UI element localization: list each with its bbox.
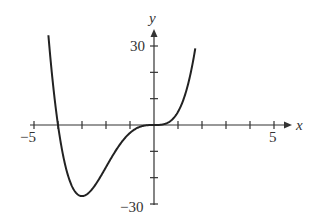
y-axis-arrow-icon <box>151 29 158 37</box>
y-axis-label: y <box>147 10 156 26</box>
x-axis-arrow-icon <box>284 122 292 129</box>
function-curve <box>48 35 195 196</box>
function-graph: x y −5 5 30 −30 <box>0 0 309 221</box>
y-max-label: 30 <box>130 38 145 54</box>
x-axis-label: x <box>295 117 303 133</box>
y-min-label: −30 <box>120 199 143 215</box>
x-max-label: 5 <box>269 129 277 145</box>
x-min-label: −5 <box>20 129 36 145</box>
